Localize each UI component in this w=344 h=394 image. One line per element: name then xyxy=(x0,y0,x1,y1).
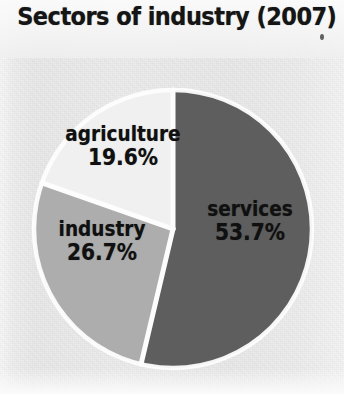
figure-container: Sectors of industry (2007) agriculture 1… xyxy=(0,0,344,394)
pie-label-industry-name: industry xyxy=(44,219,160,240)
pie-label-industry-value: 26.7% xyxy=(44,241,160,264)
pie-label-agriculture-name: agriculture xyxy=(59,124,187,145)
pie-label-services-value: 53.7% xyxy=(195,221,304,244)
pie-label-agriculture: agriculture 19.6% xyxy=(59,124,187,170)
pie-label-services: services 53.7% xyxy=(195,199,304,245)
pie-label-agriculture-value: 19.6% xyxy=(59,146,187,169)
pie-label-industry: industry 26.7% xyxy=(44,219,160,265)
pie-label-services-name: services xyxy=(195,199,304,220)
scan-speck xyxy=(320,34,324,40)
